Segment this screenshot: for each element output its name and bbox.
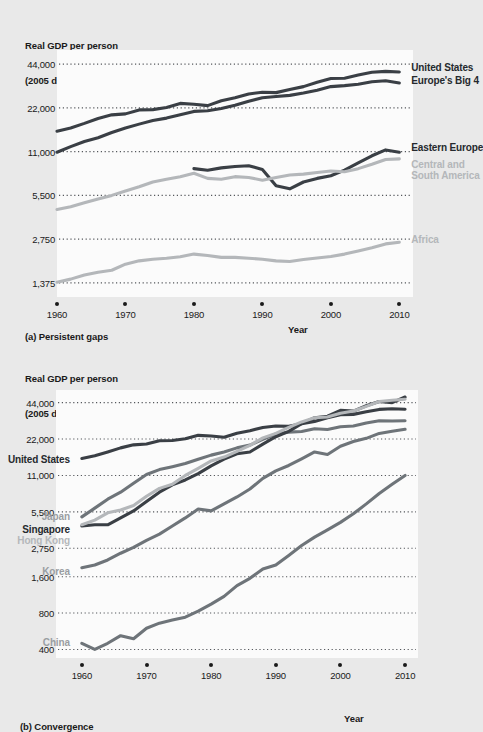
series-label-africa: Africa bbox=[411, 234, 438, 245]
x-axis-tick-dot bbox=[403, 663, 407, 667]
series-label-central-and-south-america: Central and South America bbox=[411, 159, 479, 181]
x-axis-tick-label: 1980 bbox=[184, 309, 204, 320]
series-label-singapore: Singapore bbox=[22, 524, 70, 535]
x-axis-tick-label: 1990 bbox=[252, 309, 272, 320]
x-axis-tick-label: 2010 bbox=[389, 309, 409, 320]
x-axis-tick-dot bbox=[338, 663, 342, 667]
series-line-united-states bbox=[57, 71, 399, 131]
x-axis-tick-label: 2000 bbox=[330, 670, 350, 681]
chart-panel-a: Real GDP per person (2005 dollars: ratio… bbox=[0, 0, 442, 344]
y-axis-tick-label: 2,750 bbox=[32, 234, 55, 245]
series-line-africa bbox=[57, 242, 399, 282]
series-label-united-states: United States bbox=[8, 454, 70, 465]
x-axis-tick-dot bbox=[55, 302, 59, 306]
x-axis-tick-label: 1980 bbox=[201, 670, 221, 681]
x-axis-tick-dot bbox=[209, 663, 213, 667]
x-axis-tick-dot bbox=[145, 663, 149, 667]
x-axis-tick-label: 2000 bbox=[321, 309, 341, 320]
x-axis-tick-dot bbox=[80, 663, 84, 667]
panel-b-svg bbox=[56, 390, 418, 658]
panel-a-xaxis-name: Year bbox=[288, 324, 308, 335]
x-axis-tick-label: 2010 bbox=[395, 670, 415, 681]
x-axis-tick-label: 1970 bbox=[115, 309, 135, 320]
series-line-hong-kong bbox=[82, 399, 405, 525]
x-axis-tick-label: 1960 bbox=[72, 670, 92, 681]
series-line-united-states bbox=[82, 409, 405, 459]
x-axis-tick-label: 1960 bbox=[47, 309, 67, 320]
panel-a-plot-area bbox=[57, 50, 413, 297]
y-axis-tick-label: 44,000 bbox=[27, 59, 55, 70]
panel-b-axis-title-line1: Real GDP per person bbox=[25, 373, 136, 385]
y-axis-tick-label: 44,000 bbox=[26, 397, 54, 408]
y-axis-tick-label: 11,000 bbox=[27, 470, 54, 481]
panel-b-caption: (b) Convergence bbox=[20, 721, 93, 732]
x-axis-tick-label: 1970 bbox=[136, 670, 156, 681]
series-label-eastern-europe: Eastern Europe bbox=[411, 142, 483, 153]
y-axis-tick-label: 800 bbox=[39, 608, 54, 619]
panel-a-svg bbox=[57, 50, 413, 297]
y-axis-tick-label: 1,375 bbox=[32, 277, 55, 288]
x-axis-tick-dot bbox=[260, 302, 264, 306]
series-label-korea: Korea bbox=[42, 566, 70, 577]
series-line-eastern-europe bbox=[194, 150, 399, 189]
x-axis-tick-dot bbox=[274, 663, 278, 667]
x-axis-tick-dot bbox=[192, 302, 196, 306]
y-axis-tick-label: 22,000 bbox=[27, 102, 55, 113]
panel-a-caption: (a) Persistent gaps bbox=[25, 331, 108, 342]
series-line-japan bbox=[82, 421, 405, 517]
series-label-china: China bbox=[43, 637, 70, 648]
x-axis-tick-dot bbox=[397, 302, 401, 306]
panel-a-y-axis-labels: 1,3752,7505,50011,00022,00044,000 bbox=[13, 50, 55, 297]
series-label-japan: Japan bbox=[42, 511, 70, 522]
series-label-hong-kong: Hong Kong bbox=[17, 535, 70, 546]
y-axis-tick-label: 5,500 bbox=[32, 190, 55, 201]
series-label-europe-s-big-4: Europe's Big 4 bbox=[411, 75, 479, 86]
panel-b-plot-area bbox=[56, 390, 418, 658]
chart-panel-b: Real GDP per person (2005 dollars: ratio… bbox=[0, 344, 442, 728]
series-line-china bbox=[82, 475, 405, 649]
y-axis-tick-label: 22,000 bbox=[26, 434, 54, 445]
x-axis-tick-dot bbox=[123, 302, 127, 306]
x-axis-tick-dot bbox=[329, 302, 333, 306]
series-label-united-states: United States bbox=[411, 62, 473, 73]
panel-b-xaxis-name: Year bbox=[344, 713, 364, 724]
y-axis-tick-label: 11,000 bbox=[28, 146, 55, 157]
x-axis-tick-label: 1990 bbox=[266, 670, 286, 681]
